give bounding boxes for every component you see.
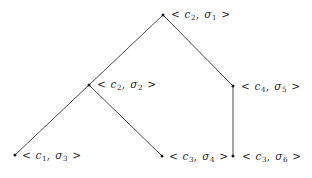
tree-edge — [163, 15, 233, 86]
tree-edge — [89, 85, 162, 156]
tree-node-label: < c3, σ4 > — [168, 151, 229, 162]
tree-node-dot — [14, 154, 17, 157]
tree-node-dot — [162, 14, 165, 17]
tree-node-dot — [88, 84, 91, 87]
tree-node-dot — [161, 155, 164, 158]
tree-node-label: < c3, σ6 > — [241, 151, 302, 162]
tree-node-dot — [232, 85, 235, 88]
tree-edge — [89, 15, 163, 85]
tree-node-label: < c1, σ3 > — [21, 150, 82, 161]
tree-node-label: < c4, σ5 > — [240, 81, 301, 92]
tree-node-label: < c2, σ2 > — [96, 79, 157, 90]
tree-node-label: < c2, σ1 > — [170, 9, 231, 20]
tree-node-dot — [232, 155, 235, 158]
tree-diagram: < c2, σ1 >< c2, σ2 >< c4, σ5 >< c1, σ3 >… — [0, 0, 312, 178]
tree-edge — [15, 85, 89, 155]
